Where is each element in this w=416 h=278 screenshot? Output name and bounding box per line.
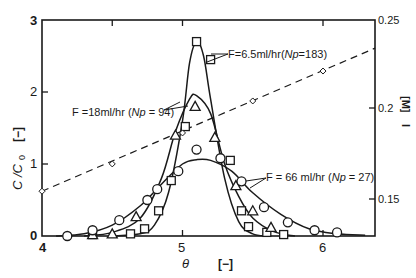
y-tick-2: 2 (30, 84, 37, 99)
salt-marker (39, 188, 45, 194)
salt-marker (250, 98, 256, 104)
label-series-6-5: F=6.5ml/hr(Np=183) (228, 48, 327, 60)
salt-marker (320, 68, 326, 74)
svg-text:[M]: [M] (400, 96, 412, 113)
circle-marker (283, 218, 292, 227)
square-marker (127, 230, 135, 238)
triangle-marker (210, 132, 220, 141)
square-marker (167, 177, 175, 185)
triangle-marker (248, 206, 258, 215)
circle-marker (310, 226, 319, 235)
square-marker (155, 207, 163, 215)
circle-marker (237, 177, 246, 186)
y2-tick-025: 0.25 (378, 14, 399, 26)
circle-marker (216, 154, 225, 163)
square-marker (280, 231, 288, 239)
y2-axis-title: I [M] (400, 96, 412, 127)
square-marker (226, 156, 234, 164)
x-tick-6: 6 (319, 240, 326, 255)
chart-container: 0 1 2 3 4 5 6 0.25 0.2 0.15 C /C 0 [−] θ… (0, 0, 416, 278)
circle-marker (63, 232, 72, 241)
y-tick-3: 3 (30, 13, 37, 28)
x-axis-unit: [−] (218, 257, 233, 271)
svg-text:I: I (400, 124, 412, 127)
x-axis-title: θ (182, 256, 189, 271)
square-marker (245, 223, 253, 231)
triangle-marker (266, 222, 276, 231)
x-tick-4: 4 (39, 240, 47, 255)
circle-marker (153, 185, 162, 194)
circle-marker (333, 228, 342, 237)
circle-marker (192, 145, 201, 154)
svg-text:0: 0 (17, 155, 27, 160)
svg-text:[−]: [−] (11, 127, 25, 142)
svg-text:C /C: C /C (10, 163, 25, 190)
triangle-marker (170, 130, 180, 139)
y2-tick-020: 0.2 (378, 102, 393, 114)
x-tick-5: 5 (178, 240, 185, 255)
circle-marker (143, 196, 152, 205)
circle-marker (259, 203, 268, 212)
square-marker (193, 38, 201, 46)
square-marker (141, 225, 149, 233)
y-tick-1: 1 (30, 156, 37, 171)
data-markers (39, 38, 342, 241)
circle-marker (115, 216, 124, 225)
square-marker (238, 207, 246, 215)
label-series-18: F =18ml/hr (Np = 94) (72, 106, 174, 118)
y-tick-0: 0 (30, 228, 37, 243)
circle-marker (174, 167, 183, 176)
y-axis-title: C /C 0 [−] (10, 127, 27, 190)
circle-marker (88, 226, 97, 235)
triangle-marker (131, 212, 141, 221)
label-series-66: F = 66 ml/hr (Np = 27) (266, 171, 374, 183)
y2-tick-015: 0.15 (378, 193, 399, 205)
plot-svg: 0 1 2 3 4 5 6 0.25 0.2 0.15 C /C 0 [−] θ… (0, 0, 416, 278)
triangle-marker (190, 101, 200, 110)
